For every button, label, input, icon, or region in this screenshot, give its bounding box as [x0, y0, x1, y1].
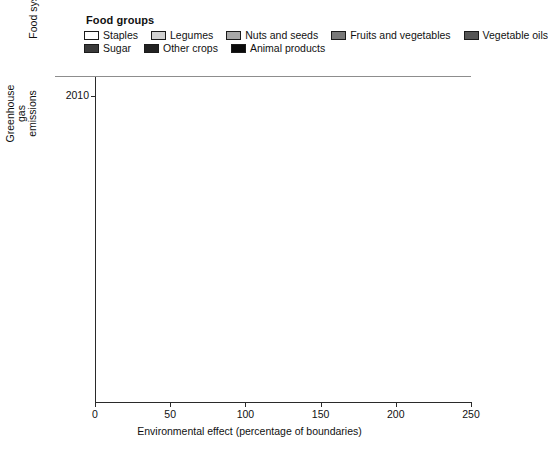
- x-tick-mark: [471, 402, 472, 407]
- legend-label: Sugar: [103, 43, 131, 54]
- legend-item[interactable]: Animal products: [231, 43, 325, 54]
- legend-label: Vegetable oils: [483, 30, 548, 41]
- legend-item[interactable]: Staples: [84, 30, 138, 41]
- legend-label: Nuts and seeds: [245, 30, 318, 41]
- chart-legend: Food groups StaplesLegumesNuts and seeds…: [84, 14, 494, 54]
- y-tick-label: 2010: [55, 89, 89, 101]
- legend-swatch-icon: [226, 31, 241, 40]
- legend-label: Staples: [103, 30, 138, 41]
- y-tick-mark: [91, 96, 96, 97]
- legend-label: Animal products: [250, 43, 325, 54]
- x-tick-label: 200: [376, 408, 416, 420]
- y-group-label: Greenhouse gasemissions: [6, 83, 39, 144]
- x-tick-label: 50: [150, 408, 190, 420]
- x-tick-mark: [321, 402, 322, 407]
- x-tick-mark: [95, 402, 96, 407]
- legend-label: Legumes: [170, 30, 213, 41]
- legend-label: Other crops: [163, 43, 218, 54]
- legend-swatch-icon: [151, 31, 166, 40]
- x-tick-label: 250: [451, 408, 491, 420]
- legend-item[interactable]: Sugar: [84, 43, 131, 54]
- legend-swatch-icon: [144, 44, 159, 53]
- legend-label: Fruits and vegetables: [350, 30, 450, 41]
- legend-item[interactable]: Nuts and seeds: [226, 30, 318, 41]
- legend-item[interactable]: Legumes: [151, 30, 213, 41]
- x-tick-label: 150: [301, 408, 341, 420]
- legend-swatch-icon: [331, 31, 346, 40]
- legend-item[interactable]: Vegetable oils: [464, 30, 548, 41]
- legend-swatch-icon: [231, 44, 246, 53]
- x-axis-title: Environmental effect (percentage of boun…: [0, 425, 499, 437]
- x-tick-mark: [245, 402, 246, 407]
- group-separator: [55, 76, 471, 77]
- y-axis-title: Food systems: [27, 0, 39, 39]
- x-tick-mark: [170, 402, 171, 407]
- x-tick-label: 0: [75, 408, 115, 420]
- legend-row-1: StaplesLegumesNuts and seedsFruits and v…: [84, 30, 494, 41]
- legend-item[interactable]: Fruits and vegetables: [331, 30, 450, 41]
- legend-swatch-icon: [464, 31, 479, 40]
- legend-swatch-icon: [84, 44, 99, 53]
- legend-row-2: SugarOther cropsAnimal products: [84, 43, 494, 54]
- x-tick-mark: [396, 402, 397, 407]
- legend-swatch-icon: [84, 31, 99, 40]
- legend-item[interactable]: Other crops: [144, 43, 218, 54]
- plot-area: [95, 76, 471, 400]
- x-tick-label: 100: [225, 408, 265, 420]
- x-axis-line: [95, 402, 472, 403]
- legend-title: Food groups: [86, 14, 494, 26]
